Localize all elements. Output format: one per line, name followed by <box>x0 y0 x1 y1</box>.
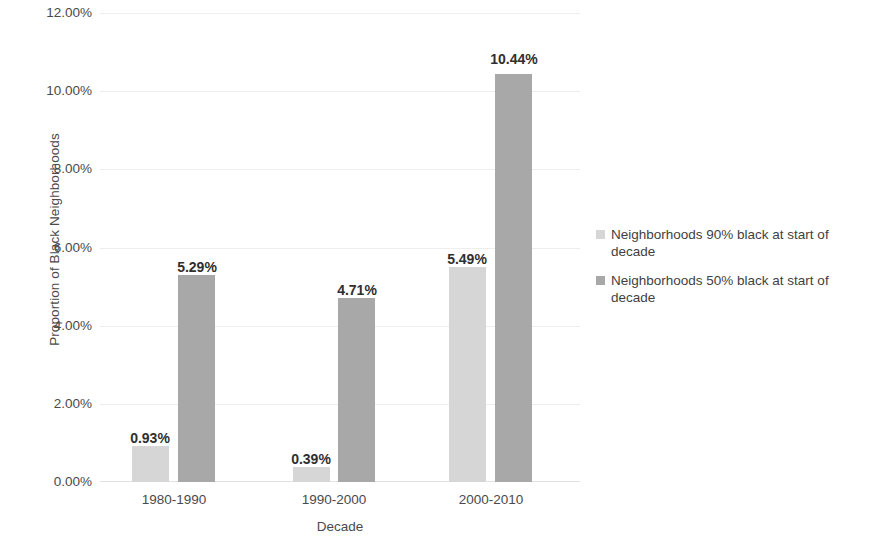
y-axis-tick-12: 12.00% <box>18 6 92 20</box>
bar-2000-2010-series-50[interactable] <box>495 74 532 482</box>
bar-1980-1990-series-50[interactable] <box>178 275 215 482</box>
bar-label-1980-1990-series-90: 0.93% <box>130 430 170 446</box>
bar-1990-2000-series-90[interactable] <box>293 467 330 482</box>
y-axis-tick-0: 0.00% <box>18 475 92 489</box>
bar-label-1980-1990-series-50: 5.29% <box>177 259 217 275</box>
legend-label-50-black: Neighborhoods 50% black at start of deca… <box>611 272 861 306</box>
legend-label-90-black: Neighborhoods 90% black at start of deca… <box>611 226 861 260</box>
y-axis-tick-4: 4.00% <box>18 319 92 333</box>
bar-1980-1990-series-90[interactable] <box>132 446 169 482</box>
legend-item-90-black[interactable]: Neighborhoods 90% black at start of deca… <box>596 226 876 260</box>
legend-swatch-icon-90-black <box>596 230 605 239</box>
x-axis-tick-1990-2000: 1990-2000 <box>302 492 367 507</box>
bar-label-2000-2010-series-90: 5.49% <box>447 251 487 267</box>
y-axis-tick-10: 10.00% <box>18 84 92 98</box>
bar-label-1990-2000-series-90: 0.39% <box>291 451 331 467</box>
chart-legend: Neighborhoods 90% black at start of deca… <box>596 226 876 318</box>
y-axis-tick-8: 8.00% <box>18 162 92 176</box>
gridline-12 <box>100 13 580 14</box>
bar-label-2000-2010-series-50: 10.44% <box>490 51 537 67</box>
bar-2000-2010-series-90[interactable] <box>449 267 486 482</box>
legend-swatch-icon-50-black <box>596 276 605 285</box>
y-axis-tick-6: 6.00% <box>18 241 92 255</box>
plot-area: 0.93% 5.29% 0.39% 4.71% 5.49% 10.44% <box>100 13 580 482</box>
x-axis-tick-1980-1990: 1980-1990 <box>142 492 207 507</box>
bar-label-1990-2000-series-50: 4.71% <box>337 282 377 298</box>
bar-1990-2000-series-50[interactable] <box>338 298 375 482</box>
y-axis-tick-2: 2.00% <box>18 397 92 411</box>
legend-item-50-black[interactable]: Neighborhoods 50% black at start of deca… <box>596 272 876 306</box>
bar-chart: Proportion of Black Neighborhoods 12.00%… <box>0 0 882 545</box>
x-axis-tick-2000-2010: 2000-2010 <box>459 492 524 507</box>
x-axis-title: Decade <box>100 519 580 534</box>
